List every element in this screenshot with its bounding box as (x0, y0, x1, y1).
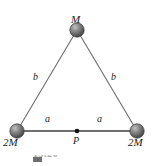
physics-figure: M 2M 2M b b a a P 13.26 (0, 0, 158, 166)
label-bottom-left-mass: 2M (3, 137, 18, 148)
label-side-right-b: b (111, 72, 116, 82)
point-p-dot (75, 129, 80, 134)
caption-text: 13.26 (33, 155, 58, 159)
label-side-left-b: b (33, 72, 38, 82)
label-bottom-right-mass: 2M (128, 137, 143, 148)
label-apex-mass: M (71, 14, 80, 25)
label-base-right-a: a (97, 114, 102, 124)
label-point-p: P (73, 136, 79, 146)
segment-right-side (77, 30, 137, 131)
label-base-left-a: a (45, 114, 50, 124)
figure-caption: 13.26 (0, 155, 158, 166)
